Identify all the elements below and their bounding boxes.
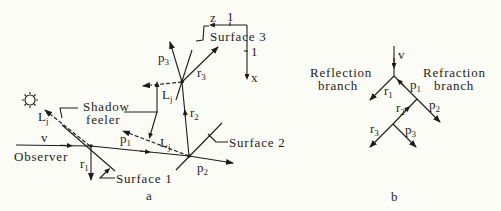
v-label: v (41, 131, 48, 144)
p3-label: p3 (158, 51, 169, 67)
tree-p2-label: p2 (429, 98, 440, 114)
r3-label: r3 (197, 66, 206, 82)
scale-vertical-label: 1 (251, 45, 258, 58)
refraction-branch-label-line2: branch (434, 79, 474, 92)
tree-r2-label: r2 (396, 101, 405, 117)
shadow-feeler-label-line2: feeler (86, 113, 120, 126)
p2-label: p2 (197, 161, 208, 177)
z-axis-label: z (210, 11, 216, 24)
surface-1-label: Surface 1 (116, 172, 173, 185)
lj-label-2: Lj (160, 136, 170, 152)
tree-v-label: v (398, 48, 405, 61)
panel-b-caption: b (391, 190, 398, 203)
tree-r3-label: r3 (370, 122, 379, 138)
tree-p1-label: p1 (410, 78, 421, 94)
tree-p3-label: p3 (405, 123, 416, 139)
tree-r1-label: r1 (384, 84, 393, 100)
x-axis-label: x (251, 71, 258, 84)
observer-label: Observer (14, 150, 68, 163)
sun-icon (22, 92, 38, 108)
surface-3-label: Surface 3 (210, 30, 267, 43)
r1-label: r1 (80, 157, 89, 173)
p1-label: p1 (120, 132, 131, 148)
reflection-branch-label-line2: branch (318, 79, 358, 92)
r2-label: r2 (190, 106, 199, 122)
scale-horizontal-label: 1 (227, 10, 234, 23)
lj-label-1: Lj (38, 110, 48, 126)
surface-2-label: Surface 2 (229, 136, 286, 149)
lj-label-3: Lj (162, 88, 172, 104)
panel-a-caption: a (146, 189, 152, 202)
